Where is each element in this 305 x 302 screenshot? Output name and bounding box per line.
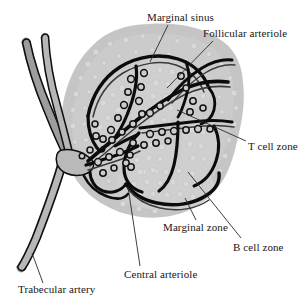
label-marginal-sinus: Marginal sinus: [147, 12, 214, 23]
label-b-cell-zone: B cell zone: [233, 242, 284, 253]
label-marginal-zone: Marginal zone: [163, 222, 228, 233]
label-t-cell-zone: T cell zone: [248, 141, 298, 152]
figure-root: Marginal sinus Follicular arteriole T ce…: [0, 0, 305, 302]
label-trabecular-artery: Trabecular artery: [18, 284, 95, 295]
leader-trabecular-artery: [32, 253, 43, 283]
label-follicular-arteriole: Follicular arteriole: [203, 28, 287, 39]
label-central-arteriole: Central arteriole: [124, 269, 197, 280]
